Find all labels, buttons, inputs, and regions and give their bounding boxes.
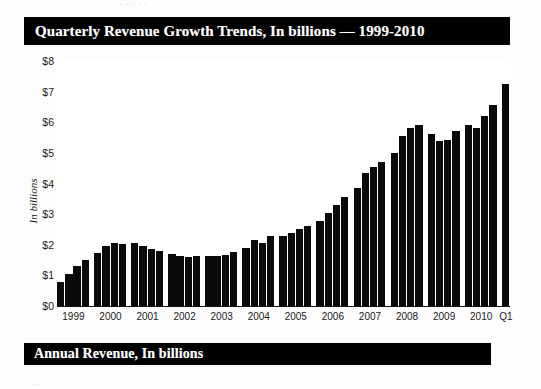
top-cropped-text: · · · · · <box>120 0 420 9</box>
bar <box>362 173 369 306</box>
bar <box>325 213 332 306</box>
y-axis-tick: $6 <box>24 116 54 128</box>
bar <box>399 136 406 306</box>
bar <box>370 167 377 306</box>
y-axis-tick: $4 <box>24 178 54 190</box>
bar <box>148 249 155 306</box>
bar <box>230 252 237 306</box>
bar <box>259 243 266 306</box>
x-axis-tick: 2009 <box>433 311 455 322</box>
y-axis-tick: $5 <box>24 147 54 159</box>
bar <box>316 221 323 306</box>
x-axis-tick: 2005 <box>285 311 307 322</box>
bar <box>168 254 175 306</box>
bar <box>341 197 348 306</box>
bar <box>444 140 451 306</box>
bar <box>193 256 200 306</box>
x-axis-tick: 2008 <box>396 311 418 322</box>
bar <box>176 256 183 306</box>
x-axis-tick: 2004 <box>248 311 270 322</box>
bar <box>213 256 220 306</box>
bar <box>378 162 385 306</box>
x-axis-tick: 2007 <box>359 311 381 322</box>
bar <box>288 233 295 307</box>
axis-baseline <box>57 306 510 307</box>
x-axis: 1999200020012002200320042005200620072008… <box>57 311 510 327</box>
bar <box>222 255 229 306</box>
bar <box>415 125 422 306</box>
bar <box>279 236 286 306</box>
bar <box>481 116 488 306</box>
x-axis-tick: Q1 <box>499 311 512 322</box>
bar <box>251 240 258 306</box>
bar <box>65 274 72 306</box>
bar <box>436 141 443 306</box>
x-axis-tick: 2006 <box>322 311 344 322</box>
bar <box>205 256 212 306</box>
bar <box>267 236 274 306</box>
bar <box>304 226 311 306</box>
bar <box>452 131 459 306</box>
bar <box>119 244 126 306</box>
x-axis-tick: 2001 <box>136 311 158 322</box>
x-axis-tick: 2002 <box>174 311 196 322</box>
y-axis-tick: $3 <box>24 208 54 220</box>
scanned-page: · · · · · Quarterly Revenue Growth Trend… <box>0 0 541 389</box>
y-axis-tick: $2 <box>24 239 54 251</box>
annual-revenue-banner: Annual Revenue, In billions <box>24 343 491 365</box>
bar <box>489 105 496 306</box>
bottom-cropped-text: · — · · · · · · · <box>26 378 206 388</box>
x-axis-tick: 2003 <box>211 311 233 322</box>
bar <box>502 84 509 306</box>
x-axis-tick: 2000 <box>99 311 121 322</box>
bar <box>156 251 163 306</box>
bar <box>111 243 118 306</box>
bar <box>391 153 398 306</box>
bar <box>242 248 249 306</box>
bar <box>296 229 303 306</box>
bar <box>82 260 89 306</box>
bar <box>57 282 64 307</box>
bar <box>465 125 472 306</box>
y-axis-tick: $7 <box>24 86 54 98</box>
quarterly-revenue-bar-chart: In billions $0$1$2$3$4$5$6$7$8 199920002… <box>0 45 541 325</box>
x-axis-tick: 1999 <box>62 311 84 322</box>
annual-revenue-title: Annual Revenue, In billions <box>34 346 203 362</box>
y-axis-tick: $1 <box>24 269 54 281</box>
bar <box>473 128 480 306</box>
y-axis-tick: $0 <box>24 300 54 312</box>
bar <box>428 134 435 306</box>
x-axis-tick: 2010 <box>470 311 492 322</box>
bar <box>102 246 109 306</box>
plot-area <box>57 61 510 306</box>
bar <box>73 266 80 306</box>
bar <box>354 188 361 306</box>
bar <box>333 205 340 306</box>
bar <box>185 257 192 306</box>
bar <box>139 246 146 306</box>
y-axis: In billions $0$1$2$3$4$5$6$7$8 <box>20 45 54 325</box>
bar <box>407 128 414 306</box>
bar <box>131 243 138 306</box>
chart-title: Quarterly Revenue Growth Trends, In bill… <box>35 23 425 40</box>
y-axis-tick: $8 <box>24 55 54 67</box>
chart-title-banner: Quarterly Revenue Growth Trends, In bill… <box>24 17 510 45</box>
bar <box>94 253 101 306</box>
